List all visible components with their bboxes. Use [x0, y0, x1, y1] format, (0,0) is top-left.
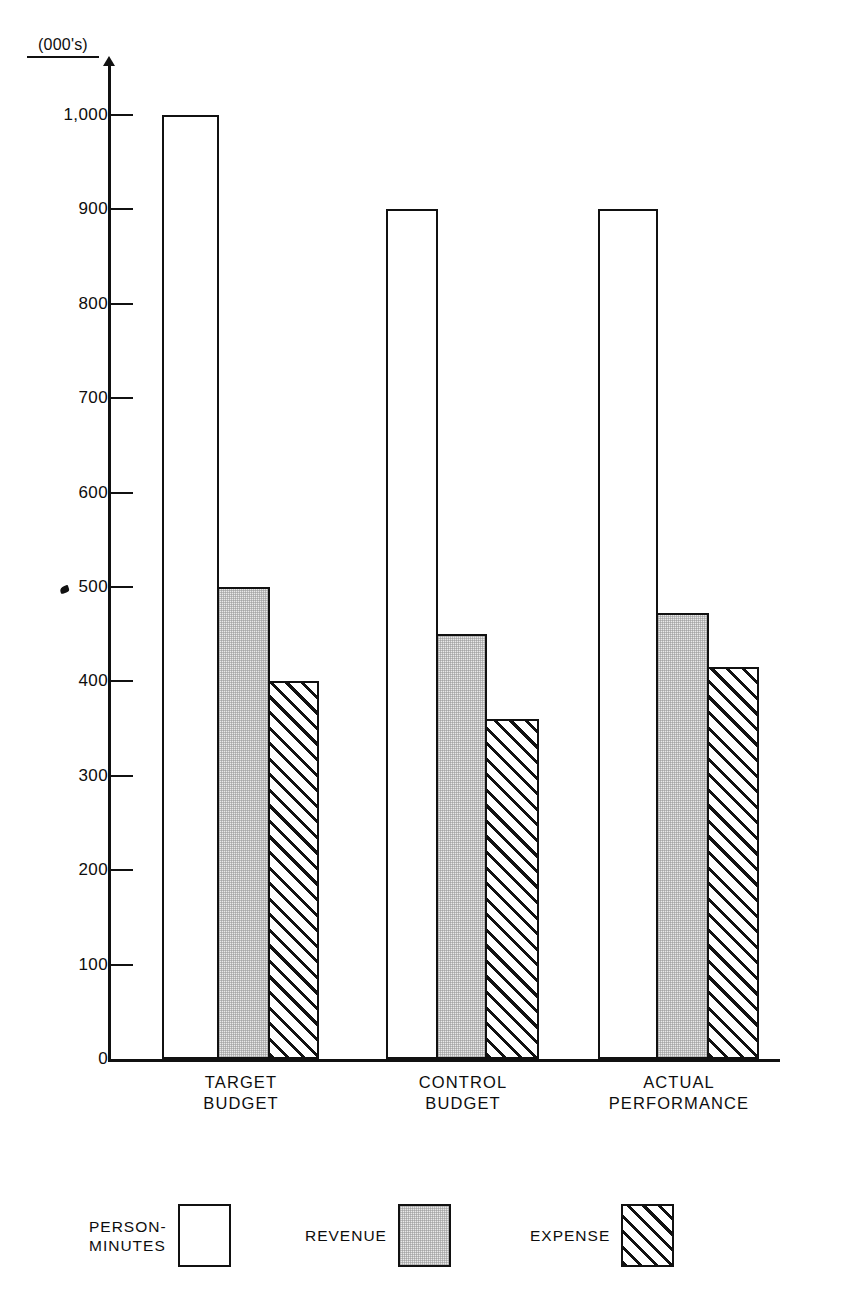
legend-label: PERSON-MINUTES	[89, 1217, 167, 1255]
category-label-line: PERFORMANCE	[569, 1093, 789, 1114]
legend-swatch-person-minutes	[178, 1204, 231, 1267]
bar-revenue	[656, 613, 709, 1059]
legend-swatch-expense	[621, 1204, 674, 1267]
bar-revenue	[436, 634, 487, 1059]
legend-label-line: MINUTES	[89, 1236, 167, 1255]
bar-person-minutes	[386, 209, 438, 1059]
category-label-line: BUDGET	[131, 1093, 351, 1114]
chart-legend: PERSON-MINUTESREVENUEEXPENSE	[0, 1186, 859, 1296]
category-label-line: CONTROL	[353, 1072, 573, 1093]
category-label-2: CONTROLBUDGET	[353, 1072, 573, 1114]
bar-expense	[707, 667, 759, 1059]
bar-revenue	[217, 587, 270, 1059]
bar-person-minutes	[598, 209, 658, 1059]
bar-expense	[485, 719, 539, 1059]
bar-chart: (000's) 01002003004005006007008009001,00…	[0, 0, 859, 1306]
bars-layer	[0, 0, 859, 1061]
legend-swatch-revenue	[398, 1204, 451, 1267]
legend-label-line: REVENUE	[305, 1226, 387, 1245]
bar-expense	[268, 681, 319, 1059]
category-label-1: TARGETBUDGET	[131, 1072, 351, 1114]
category-label-3: ACTUALPERFORMANCE	[569, 1072, 789, 1114]
legend-item-2: REVENUE	[305, 1204, 451, 1267]
legend-item-1: PERSON-MINUTES	[89, 1204, 231, 1267]
legend-label-line: EXPENSE	[530, 1226, 610, 1245]
bar-person-minutes	[162, 115, 219, 1059]
legend-item-3: EXPENSE	[530, 1204, 674, 1267]
legend-label: REVENUE	[305, 1226, 387, 1245]
legend-label-line: PERSON-	[89, 1217, 167, 1236]
category-label-line: BUDGET	[353, 1093, 573, 1114]
category-label-line: ACTUAL	[569, 1072, 789, 1093]
legend-label: EXPENSE	[530, 1226, 610, 1245]
category-label-line: TARGET	[131, 1072, 351, 1093]
